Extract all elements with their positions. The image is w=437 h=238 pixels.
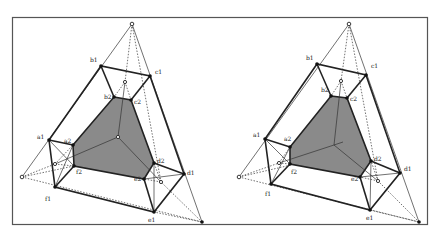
vertex-a1 bbox=[47, 138, 51, 142]
inner-left-vertex bbox=[277, 161, 280, 164]
shaded-face bbox=[73, 97, 154, 179]
label-c1: c1 bbox=[155, 68, 162, 75]
label-d1: d1 bbox=[187, 169, 195, 176]
vertex-a1 bbox=[263, 137, 267, 141]
label-f1: f1 bbox=[45, 195, 51, 202]
label-d2: d2 bbox=[157, 157, 165, 164]
label-b2: b2 bbox=[104, 93, 112, 100]
vertex-c2 bbox=[345, 96, 349, 100]
inner-right-vertex bbox=[159, 180, 162, 183]
apex-left-vertex bbox=[237, 175, 241, 179]
vertex-b2 bbox=[112, 95, 116, 99]
vertex-e1 bbox=[368, 208, 372, 212]
vertex-c1 bbox=[148, 74, 152, 78]
vertex-b1 bbox=[315, 62, 319, 66]
label-a1: a1 bbox=[253, 131, 260, 138]
inner-left-vertex bbox=[53, 162, 56, 165]
vertex-f2 bbox=[288, 162, 292, 166]
label-c2: c2 bbox=[350, 95, 357, 102]
inner-top-vertex bbox=[339, 79, 342, 82]
inner-right-vertex bbox=[376, 179, 379, 182]
vertex-a2 bbox=[288, 145, 292, 149]
vertex-d2 bbox=[152, 161, 156, 165]
vertex-d1 bbox=[182, 172, 186, 176]
label-f2: f2 bbox=[291, 168, 297, 175]
left-figure: b1 c1 b2 c2 a1 a2 f2 f1 d2 d1 e2 e1 bbox=[20, 22, 204, 224]
label-e1: e1 bbox=[148, 216, 155, 223]
label-c2: c2 bbox=[134, 98, 141, 105]
inner-center-vertex bbox=[116, 135, 119, 138]
right-figure: b1 c1 b2 c2 a1 a2 f2 f1 d2 d1 e2 e1 bbox=[237, 22, 421, 224]
label-c1: c1 bbox=[371, 62, 378, 69]
vertex-f1 bbox=[53, 185, 57, 189]
vertex-f1 bbox=[269, 182, 273, 186]
stereo-polyhedron-diagram: b1 c1 b2 c2 a1 a2 f2 f1 d2 d1 e2 e1 bbox=[0, 0, 437, 238]
apex-top-vertex bbox=[347, 22, 351, 26]
label-d2: d2 bbox=[374, 155, 382, 162]
label-f2: f2 bbox=[76, 168, 82, 175]
vertex-c2 bbox=[129, 98, 133, 102]
apex-left-vertex bbox=[20, 175, 24, 179]
apex-right-vertex bbox=[200, 220, 204, 224]
vertex-a2 bbox=[71, 143, 75, 147]
inner-top-vertex bbox=[123, 80, 126, 83]
vertex-e1 bbox=[152, 210, 156, 214]
label-b1: b1 bbox=[90, 56, 98, 63]
label-d1: d1 bbox=[404, 165, 412, 172]
vertex-c1 bbox=[364, 73, 368, 77]
vertex-b2 bbox=[329, 94, 333, 98]
label-e1: e1 bbox=[366, 214, 373, 221]
vertex-b1 bbox=[99, 64, 103, 68]
label-e2: e2 bbox=[351, 175, 359, 182]
apex-top-vertex bbox=[130, 22, 134, 26]
vertex-d2 bbox=[369, 159, 373, 163]
label-e2: e2 bbox=[134, 175, 142, 182]
label-b2: b2 bbox=[321, 86, 329, 93]
label-b1: b1 bbox=[306, 54, 314, 61]
label-a2: a2 bbox=[284, 135, 292, 142]
label-a1: a1 bbox=[37, 133, 44, 140]
vertex-e2 bbox=[358, 175, 362, 179]
vertex-d1 bbox=[398, 171, 402, 175]
label-a2: a2 bbox=[64, 137, 72, 144]
label-f1: f1 bbox=[265, 190, 271, 197]
apex-right-vertex bbox=[417, 220, 421, 224]
shaded-face bbox=[290, 96, 371, 177]
vertex-e2 bbox=[142, 177, 146, 181]
